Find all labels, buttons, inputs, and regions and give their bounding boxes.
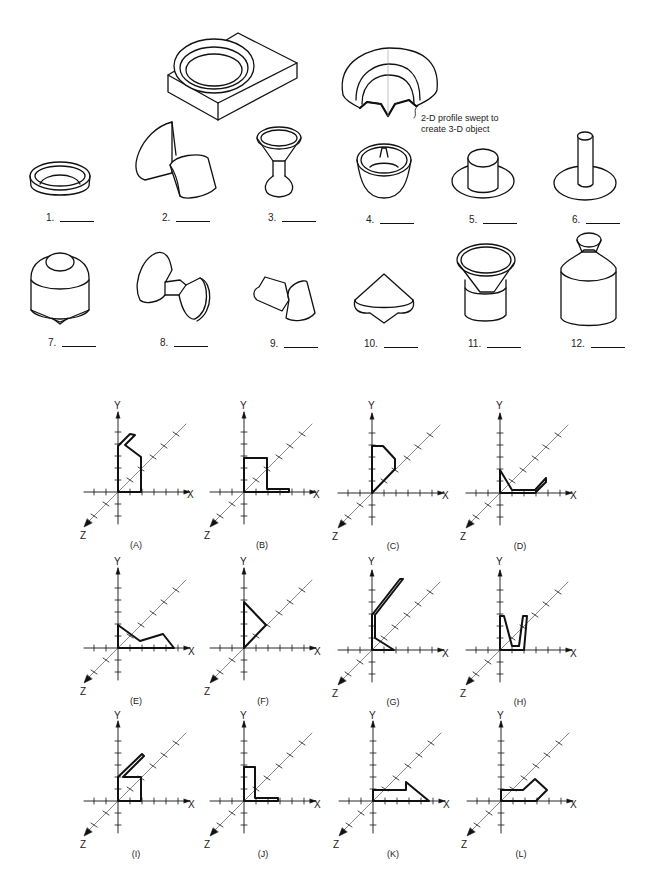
axis-y-label: Y	[497, 710, 504, 721]
axis-x-label: X	[314, 646, 321, 657]
axis-x-label: X	[442, 490, 449, 501]
profile-H	[466, 570, 572, 685]
object-number: 6.	[572, 214, 580, 225]
object-label-5: 5.	[469, 214, 517, 225]
axis-z-label: Z	[80, 839, 86, 850]
answer-blank[interactable]	[62, 346, 96, 347]
axis-y-label: Y	[368, 400, 375, 411]
object-label-10: 10.	[364, 338, 418, 349]
callout-line-2: create 3-D object	[421, 124, 499, 135]
object-number: 7.	[48, 337, 56, 348]
object-number: 10.	[364, 338, 378, 349]
axis-y-label: Y	[114, 400, 121, 411]
axis-x-label: X	[188, 646, 195, 657]
object-number: 11.	[468, 338, 481, 349]
object-number: 1.	[46, 212, 54, 223]
profile-I	[84, 721, 190, 836]
object-label-8: 8.	[160, 337, 208, 348]
axis-y-label: Y	[114, 556, 121, 567]
object-number: 2.	[162, 212, 170, 223]
axis-x-label: X	[314, 799, 321, 810]
answer-blank[interactable]	[483, 223, 517, 224]
object-number: 9.	[270, 338, 278, 349]
axis-z-label: Z	[460, 688, 466, 699]
profiles-canvas	[0, 0, 648, 876]
axis-z-label: Z	[460, 531, 466, 542]
axis-x-label: X	[570, 799, 577, 810]
object-label-7: 7.	[48, 337, 96, 348]
profile-caption: (G)	[387, 697, 400, 707]
sweep-callout: 2-D profile swept to create 3-D object	[421, 113, 499, 135]
object-label-11: 11.	[468, 338, 521, 349]
axis-y-label: Y	[496, 400, 503, 411]
profile-J	[210, 721, 316, 836]
profile-caption: (H)	[514, 697, 527, 707]
axis-y-label: Y	[496, 556, 503, 567]
axis-z-label: Z	[80, 686, 86, 697]
object-label-4: 4.	[366, 214, 414, 225]
object-label-9: 9.	[270, 338, 318, 349]
axis-z-label: Z	[332, 531, 338, 542]
answer-blank[interactable]	[380, 223, 414, 224]
axis-z-label: Z	[80, 530, 86, 541]
profile-B	[210, 412, 316, 527]
profile-E	[84, 568, 190, 683]
axis-y-label: Y	[240, 400, 247, 411]
profile-caption: (B)	[256, 540, 268, 550]
object-label-1: 1.	[46, 212, 94, 223]
profile-caption: (F)	[257, 696, 269, 706]
profile-caption: (E)	[130, 696, 142, 706]
answer-blank[interactable]	[60, 221, 94, 222]
answer-blank[interactable]	[174, 346, 208, 347]
profile-K	[339, 721, 445, 836]
profile-caption: (K)	[387, 849, 399, 859]
object-label-6: 6.	[572, 214, 620, 225]
profile-C	[338, 413, 444, 528]
profile-D	[466, 413, 572, 528]
answer-blank[interactable]	[284, 347, 318, 348]
axis-x-label: X	[187, 489, 194, 500]
axis-z-label: Z	[461, 839, 467, 850]
axis-x-label: X	[188, 799, 195, 810]
answer-blank[interactable]	[487, 347, 521, 348]
answer-blank[interactable]	[176, 221, 210, 222]
axis-y-label: Y	[240, 710, 247, 721]
object-number: 3.	[268, 212, 276, 223]
axis-z-label: Z	[333, 839, 339, 850]
profile-F	[210, 568, 316, 683]
object-number: 4.	[366, 214, 374, 225]
object-number: 12.	[571, 338, 585, 349]
axis-z-label: Z	[332, 688, 338, 699]
axis-z-label: Z	[204, 686, 210, 697]
axis-y-label: Y	[240, 556, 247, 567]
axis-y-label: Y	[368, 556, 375, 567]
axis-z-label: Z	[204, 530, 210, 541]
profile-L	[467, 721, 573, 836]
axis-x-label: X	[313, 489, 320, 500]
answer-blank[interactable]	[586, 223, 620, 224]
answer-blank[interactable]	[591, 347, 625, 348]
axis-x-label: X	[443, 799, 450, 810]
axis-x-label: X	[570, 648, 577, 659]
object-label-12: 12.	[571, 338, 625, 349]
profile-caption: (C)	[387, 541, 400, 551]
profile-caption: (A)	[130, 540, 142, 550]
answer-blank[interactable]	[384, 347, 418, 348]
profile-caption: (D)	[514, 541, 527, 551]
callout-line-1: 2-D profile swept to	[421, 113, 499, 124]
object-number: 5.	[469, 214, 477, 225]
profile-caption: (J)	[258, 849, 269, 859]
axis-z-label: Z	[204, 839, 210, 850]
profile-G	[338, 570, 444, 685]
object-label-2: 2.	[162, 212, 210, 223]
profile-A	[84, 412, 190, 527]
axis-y-label: Y	[369, 710, 376, 721]
profile-caption: (L)	[516, 849, 527, 859]
axis-x-label: X	[442, 648, 449, 659]
axis-x-label: X	[570, 490, 577, 501]
answer-blank[interactable]	[282, 221, 316, 222]
object-number: 8.	[160, 337, 168, 348]
axis-y-label: Y	[114, 710, 121, 721]
object-label-3: 3.	[268, 212, 316, 223]
profile-caption: (I)	[132, 849, 141, 859]
